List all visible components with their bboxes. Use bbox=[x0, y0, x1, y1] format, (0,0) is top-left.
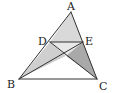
triangle-diagram: A D E B C bbox=[0, 0, 117, 93]
region-ade bbox=[50, 12, 83, 42]
label-e: E bbox=[85, 35, 93, 48]
label-a: A bbox=[66, 0, 76, 13]
label-b: B bbox=[7, 78, 15, 91]
label-c: C bbox=[99, 80, 107, 93]
label-d: D bbox=[38, 35, 47, 48]
